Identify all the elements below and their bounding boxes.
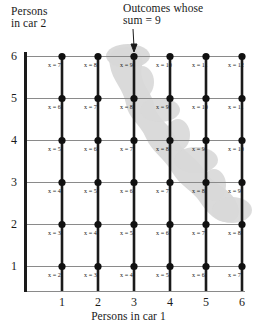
x-tick-5: 5	[198, 295, 214, 310]
y-tick-3: 3	[6, 175, 22, 190]
point-label: x = 4	[84, 229, 97, 236]
point-label: x = 6	[84, 145, 97, 152]
x-tick-1: 1	[54, 295, 70, 310]
x-tick-3: 3	[126, 295, 142, 310]
point-label: x = 10	[228, 145, 244, 152]
x-tick-4: 4	[162, 295, 178, 310]
point-label: x = 9	[120, 61, 133, 68]
point-label: x = 6	[120, 187, 133, 194]
point-label: x = 5	[48, 145, 61, 152]
point-label: x = 10	[192, 103, 208, 110]
point-label: x = 3	[84, 271, 97, 278]
point-label: x = 6	[48, 103, 61, 110]
point-label: x = 6	[156, 229, 169, 236]
point-label: x = 2	[48, 271, 61, 278]
point-label: x = 7	[48, 61, 61, 68]
point-label: x = 12	[228, 61, 244, 68]
sum-9-highlight-band	[106, 44, 252, 223]
point-label: x = 9	[156, 103, 169, 110]
point-label: x = 8	[84, 61, 97, 68]
point-label: x = 8	[192, 187, 205, 194]
sample-space-lattice-figure: Persons in car 2 Outcomes whose sum = 9 …	[0, 0, 257, 332]
point-label: x = 8	[156, 145, 169, 152]
point-label: x = 9	[228, 187, 241, 194]
sum-9-annotation-text: Outcomes whose sum = 9	[123, 2, 203, 26]
point-label: x = 4	[48, 187, 61, 194]
x-tick-2: 2	[90, 295, 106, 310]
point-label: x = 6	[192, 271, 205, 278]
point-label: x = 5	[84, 187, 97, 194]
point-label: x = 4	[120, 271, 133, 278]
point-label: x = 5	[156, 271, 169, 278]
lattice-canvas	[0, 0, 257, 332]
x-tick-6: 6	[234, 295, 250, 310]
point-label: x = 7	[228, 271, 241, 278]
point-label: x = 7	[120, 145, 133, 152]
point-label: x = 8	[228, 229, 241, 236]
y-tick-2: 2	[6, 217, 22, 232]
y-tick-4: 4	[6, 133, 22, 148]
y-axis-title: Persons in car 2	[11, 6, 47, 29]
point-label: x = 7	[156, 187, 169, 194]
point-label: x = 8	[120, 103, 133, 110]
y-tick-1: 1	[6, 259, 22, 274]
point-label: x = 9	[192, 145, 205, 152]
point-label: x = 11	[192, 61, 208, 68]
point-label: x = 10	[156, 61, 172, 68]
point-label: x = 3	[48, 229, 61, 236]
point-label: x = 7	[84, 103, 97, 110]
point-label: x = 7	[192, 229, 205, 236]
y-tick-5: 5	[6, 91, 22, 106]
point-label: x = 5	[120, 229, 133, 236]
point-label: x = 11	[228, 103, 244, 110]
x-axis-title: Persons in car 1	[0, 310, 257, 322]
y-tick-6: 6	[6, 49, 22, 64]
